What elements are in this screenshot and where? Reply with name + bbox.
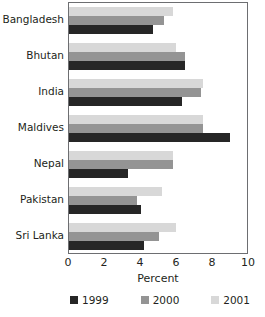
bar-group [69,182,248,218]
category-label-bangladesh: Bangladesh [0,14,64,25]
category-label-pakistan: Pakistan [0,194,64,205]
bar-bangladesh-1999 [69,25,153,34]
category-row: Sri Lanka [0,218,265,254]
x-tick-0: 0 [65,256,72,270]
bar-pakistan-2001 [69,187,162,196]
category-row: Bhutan [0,38,265,74]
bar-india-1999 [69,97,182,106]
bar-chart: BangladeshBhutanIndiaMaldivesNepalPakist… [0,0,265,317]
bar-india-2001 [69,79,203,88]
x-axis-tick-labels: 0246810 [68,256,248,272]
legend-label-1999: 1999 [82,294,109,306]
category-row: Pakistan [0,182,265,218]
x-tick-4: 4 [137,256,144,270]
bar-nepal-2001 [69,151,173,160]
bar-bhutan-2000 [69,52,185,61]
x-axis-title: Percent [68,272,248,285]
bar-group [69,218,248,254]
bar-maldives-1999 [69,133,230,142]
bar-sri-lanka-2000 [69,232,159,241]
bar-bangladesh-2001 [69,7,173,16]
bar-maldives-2000 [69,124,203,133]
legend-label-2000: 2000 [153,294,180,306]
x-tick-10: 10 [241,256,255,270]
bar-nepal-2000 [69,160,173,169]
category-label-nepal: Nepal [0,158,64,169]
bar-nepal-1999 [69,169,128,178]
bar-group [69,110,248,146]
x-tick-2: 2 [101,256,108,270]
bar-group [69,146,248,182]
x-tick-8: 8 [209,256,216,270]
legend-swatch-icon-2001 [211,296,219,304]
category-row: Nepal [0,146,265,182]
bar-group [69,38,248,74]
category-row: India [0,74,265,110]
bar-group [69,74,248,110]
legend-label-2001: 2001 [223,294,250,306]
bar-bangladesh-2000 [69,16,164,25]
category-row: Bangladesh [0,2,265,38]
legend-swatch-icon-1999 [70,296,78,304]
bar-sri-lanka-1999 [69,241,144,250]
bar-pakistan-2000 [69,196,137,205]
legend-item-1999[interactable]: 1999 [70,294,109,306]
category-label-maldives: Maldives [0,122,64,133]
bar-bhutan-1999 [69,61,185,70]
category-row: Maldives [0,110,265,146]
category-label-sri-lanka: Sri Lanka [0,230,64,241]
x-tick-6: 6 [173,256,180,270]
bar-group [69,2,248,38]
legend-swatch-icon-2000 [141,296,149,304]
category-label-bhutan: Bhutan [0,50,64,61]
legend-item-2000[interactable]: 2000 [141,294,180,306]
bar-maldives-2001 [69,115,203,124]
bar-bhutan-2001 [69,43,176,52]
bar-sri-lanka-2001 [69,223,176,232]
bar-india-2000 [69,88,201,97]
legend-item-2001[interactable]: 2001 [211,294,250,306]
chart-legend: 199920002001 [68,294,252,306]
category-label-india: India [0,86,64,97]
bar-pakistan-1999 [69,205,141,214]
